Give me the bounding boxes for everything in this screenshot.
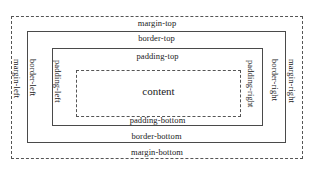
label-padding-bottom: padding-bottom <box>52 115 263 125</box>
label-border-top: border-top <box>27 33 286 43</box>
label-margin-bottom: margin-bottom <box>11 147 303 157</box>
label-padding-left: padding-left <box>53 60 63 103</box>
label-border-bottom: border-bottom <box>27 131 286 141</box>
label-padding-right: padding-right <box>246 60 256 108</box>
label-padding-top: padding-top <box>52 51 263 61</box>
css-box-model-diagram: margin-top border-top padding-top conten… <box>0 0 313 172</box>
label-border-right: border-right <box>270 59 280 101</box>
label-border-left: border-left <box>28 59 38 96</box>
label-margin-right: margin-right <box>287 59 297 103</box>
label-margin-left: margin-left <box>12 59 22 98</box>
label-content: content <box>76 85 241 98</box>
label-margin-top: margin-top <box>11 18 303 28</box>
